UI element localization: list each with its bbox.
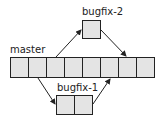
label-master: master [10,45,45,55]
bugfix-2-branch [83,21,101,39]
branch-diagram [0,0,165,119]
label-bugfix-1: bugfix-1 [57,83,98,93]
master-branch [11,58,155,78]
bugfix-1-branch [57,96,93,115]
label-bugfix-2: bugfix-2 [82,7,123,17]
